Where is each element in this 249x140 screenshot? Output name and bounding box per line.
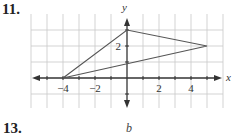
y-axis-down-arrow-icon	[124, 100, 130, 108]
problem-number-13: 13.	[3, 120, 22, 137]
y-tick-label: 2	[116, 40, 122, 52]
x-axis-label: x	[225, 71, 231, 83]
x-axis-left-arrow-icon	[32, 75, 40, 81]
problem-13-label: b	[126, 121, 132, 136]
x-tick-label: −2	[89, 82, 101, 94]
y-axis-up-arrow-icon	[124, 18, 130, 26]
coordinate-graph: −4−2242 y x	[0, 0, 249, 140]
x-tick-label: 4	[188, 82, 194, 94]
x-tick-label: 2	[156, 82, 162, 94]
y-axis-label: y	[121, 1, 127, 13]
x-axis-right-arrow-icon	[214, 75, 222, 81]
x-tick-label: −4	[57, 82, 69, 94]
triangle	[63, 30, 207, 78]
